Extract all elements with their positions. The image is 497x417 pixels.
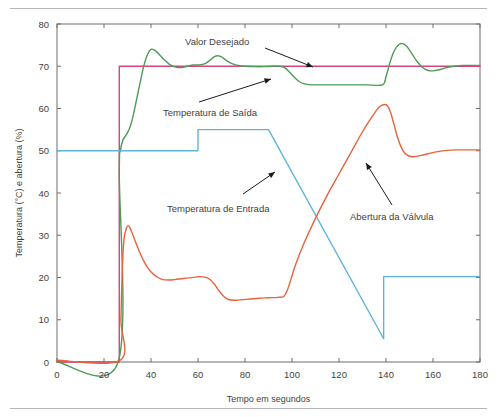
y-tick-label: 10 [38, 314, 49, 325]
y-tick-label: 80 [38, 19, 49, 30]
annotation-label: Temperatura de Saída [163, 107, 258, 118]
annotation-arrow [265, 48, 313, 67]
annotation-label: Abertura da Válvula [350, 211, 434, 222]
x-tick-label: 0 [54, 369, 59, 380]
y-tick-label: 30 [38, 230, 49, 241]
y-tick-labels: 01020304050607080 [38, 19, 49, 368]
x-tick-label: 60 [193, 369, 204, 380]
x-tick-label: 100 [284, 369, 300, 380]
y-tick-label: 40 [38, 188, 49, 199]
x-tick-label: 120 [331, 369, 347, 380]
x-tick-label: 140 [378, 369, 394, 380]
y-tick-label: 70 [38, 61, 49, 72]
annotation-arrowhead [268, 172, 275, 178]
series-line [57, 104, 480, 363]
x-tick-label: 40 [146, 369, 157, 380]
series-line [57, 130, 480, 339]
y-tick-label: 60 [38, 103, 49, 114]
annotation-arrowhead [264, 78, 271, 83]
y-tick-label: 0 [44, 357, 49, 368]
x-tick-labels: 020406080100120140160180 [54, 369, 488, 380]
annotation-arrow [199, 79, 271, 102]
y-axis-title: Temperatura (°C) e abertura (%) [14, 128, 24, 257]
y-tick-label: 50 [38, 145, 49, 156]
x-axis-title: Tempo em segundos [227, 394, 311, 404]
annotation-arrowhead [366, 163, 372, 170]
annotation-label: Temperatura de Entrada [167, 203, 270, 214]
y-tick-label: 20 [38, 272, 49, 283]
chart-figure: 020406080100120140160180 010203040506070… [0, 0, 497, 417]
x-tick-label: 20 [99, 369, 110, 380]
x-tick-label: 80 [240, 369, 251, 380]
x-tick-label: 180 [472, 369, 488, 380]
x-tick-label: 160 [425, 369, 441, 380]
annotation-arrowhead [306, 62, 313, 67]
annotation-arrow [366, 163, 392, 205]
chart-svg: 020406080100120140160180 010203040506070… [0, 0, 497, 417]
annotation-label: Valor Desejado [185, 36, 249, 47]
